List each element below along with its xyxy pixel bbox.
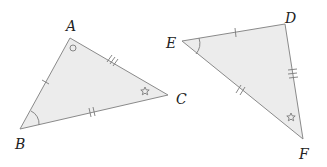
vertex-label-e: E — [165, 35, 176, 51]
vertex-label-f: F — [298, 146, 310, 162]
vertex-label-b: B — [14, 136, 25, 152]
triangle-abc-shape — [20, 38, 168, 129]
triangle-def: E D F — [165, 10, 310, 162]
vertex-label-a: A — [64, 18, 76, 34]
vertex-label-d: D — [284, 10, 296, 26]
congruent-triangles-diagram: A B C E D F — [0, 0, 327, 167]
triangle-abc: A B C — [14, 18, 187, 152]
vertex-label-c: C — [176, 91, 187, 107]
